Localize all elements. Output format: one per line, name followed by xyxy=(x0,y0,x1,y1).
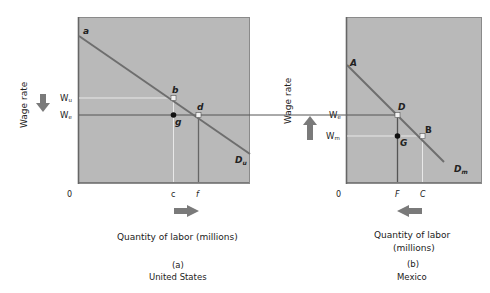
panel-b-xlabel-line2: (millions) xyxy=(393,243,435,253)
labor-migration-diagram: a b d g Du Wage rate Wu We 0 c f Quantit… xyxy=(0,0,490,293)
panel-a-united-states: a b d g Du Wage rate Wu We 0 c f Quantit… xyxy=(19,17,346,282)
arrow-down-icon xyxy=(36,94,50,112)
arrow-up-icon xyxy=(303,116,317,140)
label-B: B xyxy=(425,125,432,135)
origin-a: 0 xyxy=(67,190,72,199)
panel-a-label: (a) xyxy=(172,260,184,270)
panel-b-label: (b) xyxy=(407,259,419,269)
label-a: a xyxy=(83,26,89,36)
arrow-right-icon xyxy=(174,205,199,217)
panel-a-ylabel: Wage rate xyxy=(19,81,29,128)
point-b xyxy=(171,96,176,101)
origin-b: 0 xyxy=(336,190,341,199)
panel-b-xlabel-line1: Quantity of labor xyxy=(374,230,451,240)
panel-a-country: United States xyxy=(149,272,207,282)
tick-F: F xyxy=(395,190,400,199)
point-D xyxy=(395,113,400,118)
label-d: d xyxy=(197,102,204,112)
panel-b-plot-area xyxy=(346,17,482,183)
arrow-left-icon xyxy=(397,205,422,217)
tick-f: f xyxy=(196,190,200,199)
panel-a-plot-area xyxy=(78,17,250,183)
label-A: A xyxy=(349,58,357,68)
label-b: b xyxy=(172,85,179,95)
point-d xyxy=(196,113,201,118)
label-G: G xyxy=(400,138,407,148)
tick-wm: Wm xyxy=(326,131,340,141)
panel-b-country: Mexico xyxy=(397,272,427,282)
tick-c: c xyxy=(171,190,175,199)
tick-C: C xyxy=(420,190,426,199)
tick-wu: Wu xyxy=(60,93,72,103)
label-g: g xyxy=(175,117,182,127)
tick-we-a: We xyxy=(60,110,72,120)
panel-b-ylabel: Wage rate xyxy=(283,77,293,124)
label-D: D xyxy=(398,102,406,112)
panel-a-xlabel: Quantity of labor (millions) xyxy=(117,232,238,242)
tick-we-b: We xyxy=(329,110,341,120)
panel-b-mexico: A D B G Dm Wage rate We Wm 0 F C Quantit… xyxy=(283,17,482,282)
